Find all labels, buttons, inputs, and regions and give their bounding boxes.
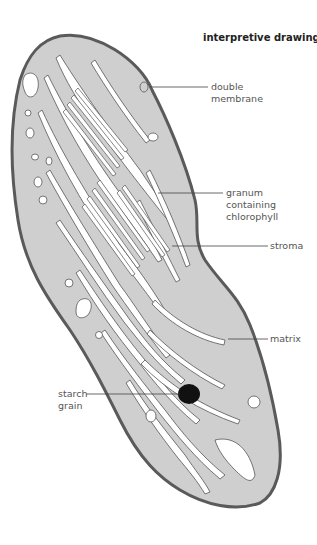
label-stroma: stroma	[270, 240, 303, 252]
chloroplast-outline	[12, 35, 280, 507]
starch-grain	[178, 384, 200, 404]
label-starch-grain: starch grain	[58, 388, 87, 412]
chloroplast-drawing	[0, 0, 317, 545]
label-double-membrane: double membrane	[211, 81, 263, 105]
label-matrix: matrix	[270, 333, 301, 345]
label-granum: granum containing chlorophyll	[226, 187, 278, 223]
